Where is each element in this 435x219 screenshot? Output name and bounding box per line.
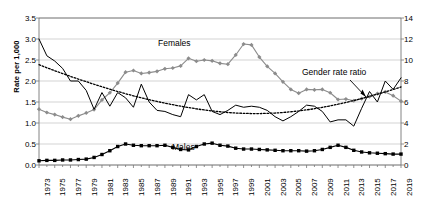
data-point-marker: [76, 114, 80, 118]
data-point-marker: [53, 159, 56, 162]
data-point-marker: [45, 110, 49, 114]
data-point-marker: [368, 151, 371, 154]
data-point-marker: [45, 159, 48, 162]
annotation-arrow-head: [361, 90, 367, 98]
data-point-marker: [108, 149, 111, 152]
data-point-marker: [344, 146, 347, 149]
data-point-marker: [147, 144, 150, 147]
chart-container: Rate per 1,000 0.00.51.01.52.02.53.03.5 …: [0, 0, 435, 219]
data-point-marker: [250, 147, 253, 150]
data-point-marker: [360, 150, 363, 153]
data-point-marker: [305, 149, 308, 152]
data-point-marker: [376, 152, 379, 155]
data-point-marker: [155, 69, 159, 73]
data-point-marker: [273, 149, 276, 152]
data-point-marker: [53, 113, 57, 117]
data-point-marker: [344, 97, 348, 101]
data-point-marker: [210, 59, 214, 63]
data-point-marker: [320, 87, 324, 91]
data-point-marker: [297, 91, 301, 95]
data-point-marker: [218, 61, 222, 65]
data-point-marker: [321, 148, 324, 151]
data-point-marker: [336, 144, 339, 147]
data-point-marker: [61, 158, 64, 161]
data-point-marker: [391, 152, 394, 155]
data-point-marker: [116, 145, 119, 148]
plot-area: [0, 0, 435, 219]
gridlines: [39, 18, 401, 165]
data-point-marker: [328, 146, 331, 149]
data-point-marker: [242, 147, 245, 150]
data-point-marker: [85, 157, 88, 160]
data-point-marker: [100, 153, 103, 156]
data-point-marker: [281, 149, 284, 152]
data-point-marker: [124, 142, 127, 145]
data-point-marker: [155, 144, 158, 147]
data-point-marker: [258, 148, 261, 151]
data-point-marker: [37, 107, 41, 111]
data-point-marker: [195, 145, 198, 148]
axis-lines: [36, 18, 404, 165]
data-point-marker: [297, 149, 300, 152]
annotation-females: Females: [158, 38, 191, 48]
data-point-marker: [266, 148, 269, 151]
data-point-marker: [68, 117, 72, 121]
data-point-marker: [399, 152, 402, 155]
data-point-marker: [61, 115, 65, 119]
data-point-marker: [37, 159, 40, 162]
data-point-marker: [131, 68, 135, 72]
data-point-marker: [203, 142, 206, 145]
annotation-arrow-layer: [350, 80, 366, 97]
series-line-2: [39, 39, 401, 126]
data-point-marker: [289, 149, 292, 152]
data-point-marker: [147, 71, 151, 75]
data-point-marker: [313, 149, 316, 152]
data-point-marker: [171, 66, 175, 70]
data-point-marker: [139, 71, 143, 75]
data-point-marker: [352, 149, 355, 152]
data-point-marker: [92, 156, 95, 159]
data-point-marker: [163, 67, 167, 71]
data-point-marker: [234, 147, 237, 150]
data-point-marker: [69, 158, 72, 161]
data-point-marker: [163, 144, 166, 147]
data-point-marker: [132, 144, 135, 147]
data-point-marker: [384, 152, 387, 155]
data-point-marker: [210, 141, 213, 144]
data-point-marker: [312, 88, 316, 92]
annotation-males: Males: [172, 142, 195, 152]
data-point-marker: [140, 144, 143, 147]
data-point-marker: [218, 144, 221, 147]
data-point-marker: [84, 111, 88, 115]
annotation-gender-rate-ratio: Gender rate ratio: [302, 67, 366, 77]
data-point-marker: [202, 58, 206, 62]
data-point-marker: [226, 144, 229, 147]
data-point-marker: [77, 158, 80, 161]
data-point-marker: [304, 87, 308, 91]
